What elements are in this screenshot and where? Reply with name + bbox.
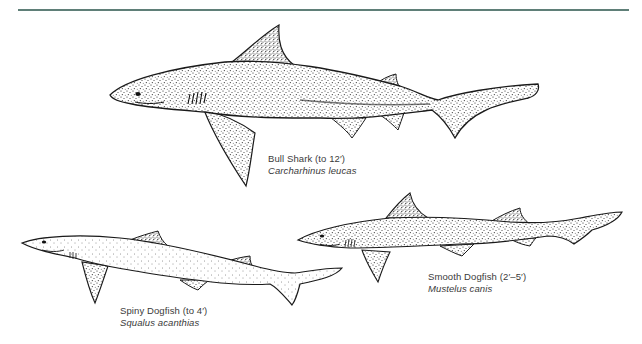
spiny-dogfish-common-name: Spiny Dogfish (to 4′) xyxy=(120,305,207,317)
smooth-dogfish-scientific-name: Mustelus canis xyxy=(428,283,526,295)
spiny-dogfish-scientific-name: Squalus acanthias xyxy=(120,317,207,329)
smooth-dogfish-drawing xyxy=(298,193,622,282)
bull-shark-caption: Bull Shark (to 12′) Carcharhinus leucas xyxy=(268,153,357,177)
smooth-dogfish-caption: Smooth Dogfish (2′–5′) Mustelus canis xyxy=(428,271,526,295)
spiny-dogfish-caption: Spiny Dogfish (to 4′) Squalus acanthias xyxy=(120,305,207,329)
bull-shark-common-name: Bull Shark (to 12′) xyxy=(268,153,357,165)
smooth-dogfish-common-name: Smooth Dogfish (2′–5′) xyxy=(428,271,526,283)
illustration-page: Bull Shark (to 12′) Carcharhinus leucas … xyxy=(0,0,642,344)
bull-shark-scientific-name: Carcharhinus leucas xyxy=(268,165,357,177)
spiny-dogfish-drawing xyxy=(22,231,342,305)
